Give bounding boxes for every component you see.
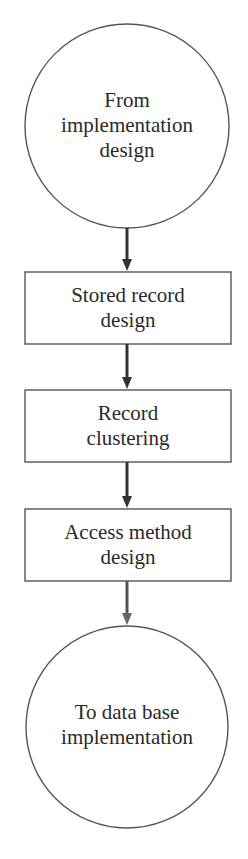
arrow-icon [122,228,132,271]
label-line: design [25,545,231,570]
label-line: design [25,138,229,163]
label-line: To data base [26,700,228,725]
label-line: From [25,88,229,113]
arrow-icon [122,581,132,625]
label-line: implementation [25,113,229,138]
label-line: implementation [26,725,228,750]
start-node-label: From implementation design [25,88,229,163]
access-method-design-label: Access method design [25,520,231,570]
label-line: clustering [25,426,231,451]
arrow-icon [122,344,132,389]
label-line: Record [25,401,231,426]
label-line: design [25,308,231,333]
record-clustering-label: Record clustering [25,401,231,451]
stored-record-design-label: Stored record design [25,283,231,333]
label-line: Stored record [25,283,231,308]
arrow-icon [122,462,132,508]
end-node-label: To data base implementation [26,700,228,750]
label-line: Access method [25,520,231,545]
